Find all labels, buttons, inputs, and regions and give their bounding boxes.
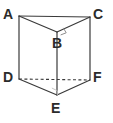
edge-df — [19, 79, 90, 80]
edge-ef — [57, 80, 90, 95]
edge-ab — [19, 16, 57, 32]
vertex-label-f: F — [93, 70, 102, 84]
edge-ac — [19, 16, 90, 17]
vertex-label-c: C — [93, 7, 103, 21]
vertex-label-b: B — [52, 36, 62, 50]
vertex-label-e: E — [51, 101, 60, 115]
edge-de — [19, 79, 57, 95]
edge-bc — [57, 17, 90, 32]
vertex-label-d: D — [3, 70, 13, 84]
vertex-label-a: A — [3, 7, 13, 21]
triangular-prism-figure: A B C D E F — [0, 0, 113, 123]
